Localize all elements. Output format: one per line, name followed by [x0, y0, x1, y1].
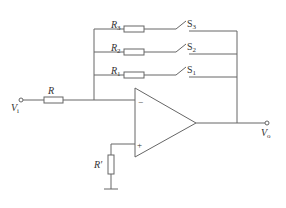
label-vi: Vi	[11, 102, 19, 115]
switch-s2	[176, 44, 186, 52]
resistor-r3	[124, 26, 144, 32]
op-amp	[135, 88, 196, 157]
inverting-input-sign: −	[138, 97, 143, 107]
label-r-prime: R′	[93, 159, 103, 170]
output-terminal	[265, 121, 269, 125]
resistor-r2	[124, 49, 144, 55]
resistor-r-prime	[108, 155, 114, 174]
label-vo: Vo	[261, 127, 271, 140]
input-terminal	[19, 98, 23, 102]
label-r1: R1	[110, 65, 121, 78]
label-s3: S3	[187, 18, 197, 31]
resistor-r1	[124, 72, 144, 78]
label-s1: S1	[187, 64, 197, 77]
label-r2: R2	[110, 42, 121, 55]
resistor-r	[44, 97, 63, 103]
label-r3: R3	[110, 19, 121, 32]
wire-noninverting	[111, 144, 135, 155]
switch-s1	[176, 67, 186, 75]
label-r: R	[47, 85, 54, 96]
label-s2: S2	[187, 41, 197, 54]
circuit-diagram: Vi R R3 R2 R1 S3 S2 S1 − + R′ Vo	[0, 0, 286, 208]
switch-s3	[176, 21, 186, 29]
noninverting-input-sign: +	[137, 140, 142, 150]
